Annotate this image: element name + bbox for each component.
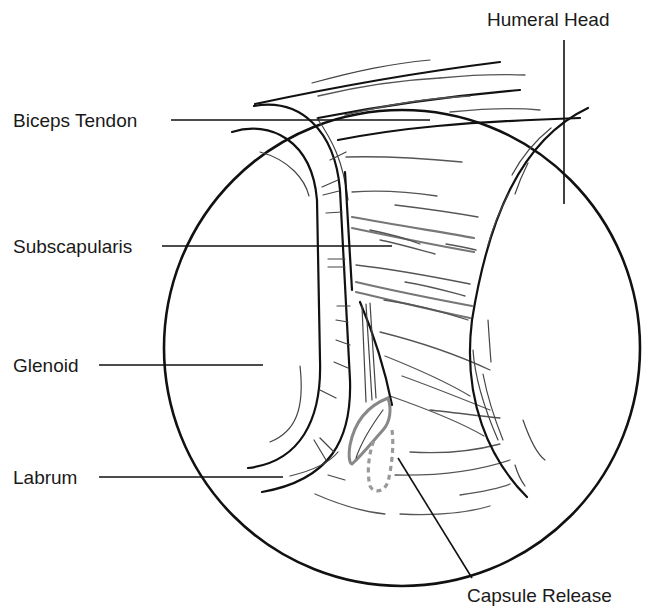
label-capsule-release: Capsule Release [467,585,612,606]
label-humeral-head: Humeral Head [487,9,610,30]
biceps-tendon-structure [255,60,580,140]
labels: Humeral Head Biceps Tendon Subscapularis… [13,9,612,606]
glenoid-structure [232,105,350,492]
shoulder-arthroscopy-diagram: Humeral Head Biceps Tendon Subscapularis… [0,0,652,612]
humeral-head-structure [470,108,588,497]
label-labrum: Labrum [13,467,77,488]
label-biceps-tendon: Biceps Tendon [13,110,137,131]
leader-lines [99,40,564,578]
subscapularis-structure [315,157,510,515]
label-subscapularis: Subscapularis [13,236,132,257]
capsule-release-structure [349,302,393,491]
leader-capsule-release [398,458,472,578]
label-glenoid: Glenoid [13,355,79,376]
